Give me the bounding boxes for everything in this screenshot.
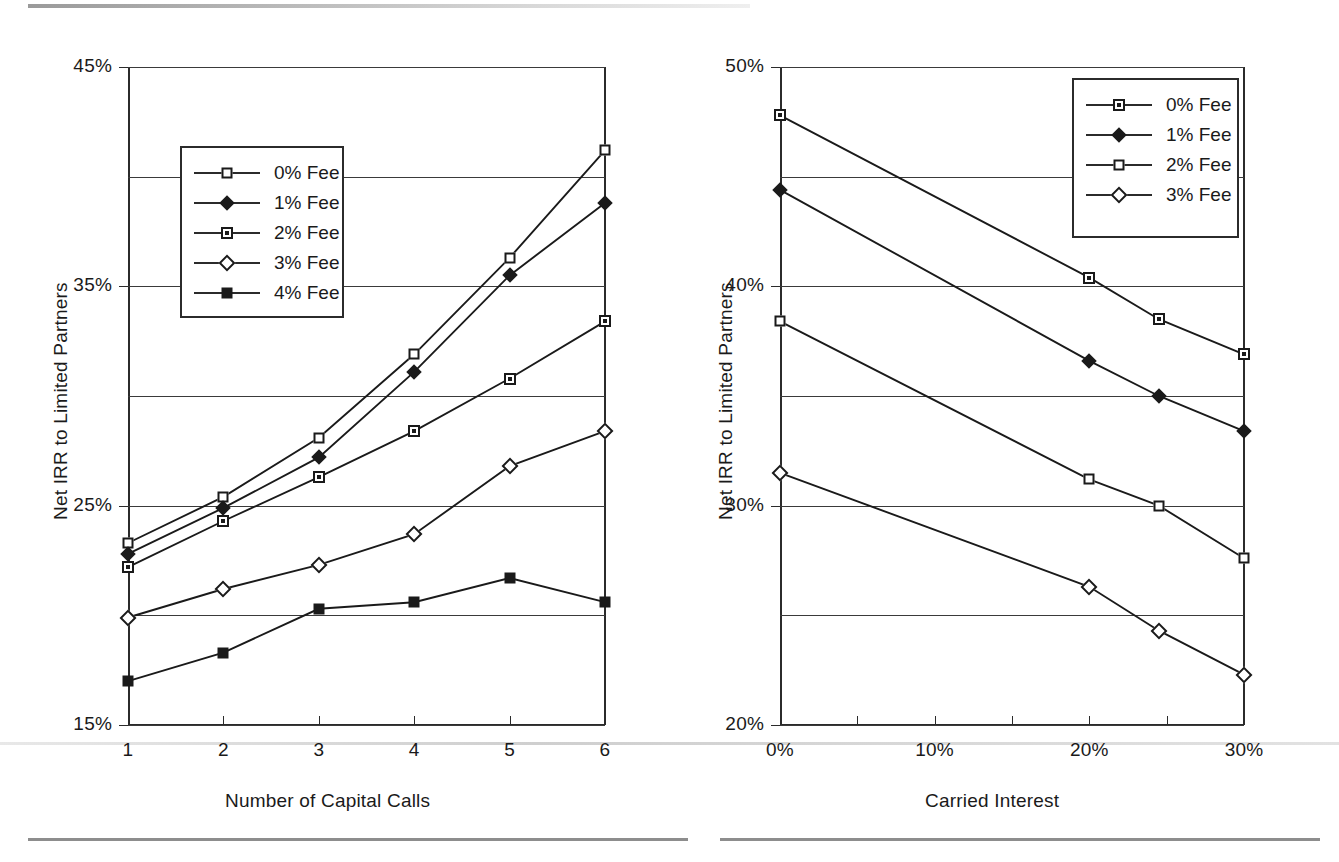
x-axis-tick-label: 3	[279, 739, 359, 761]
y-axis-tick	[771, 506, 780, 507]
left-chart: Net IRR to Limited Partners Number of Ca…	[0, 0, 700, 830]
y-axis-tick-label: 25%	[38, 494, 112, 516]
legend-item-label: 1% Fee	[274, 192, 339, 214]
legend-marker-sample	[1086, 154, 1152, 176]
x-axis-tick-label: 2	[183, 739, 263, 761]
legend-item-label: 3% Fee	[1166, 184, 1231, 206]
y-axis-tick-label: 35%	[38, 274, 112, 296]
right-chart-y-axis-title: Net IRR to Limited Partners	[715, 282, 737, 520]
marker-filled-square	[222, 288, 233, 299]
legend-item[interactable]: 2% Fee	[1086, 150, 1221, 180]
marker-filled-diamond	[219, 195, 235, 211]
legend-marker-sample	[194, 252, 260, 274]
y-axis-tick	[119, 67, 128, 68]
right-chart: Net IRR to Limited Partners Carried Inte…	[660, 0, 1339, 830]
marker-open-square	[1153, 500, 1164, 511]
x-axis-tick-label: 0%	[740, 739, 820, 761]
legend-marker-sample	[194, 222, 260, 244]
marker-dot-square	[221, 227, 233, 239]
legend-marker-sample	[194, 162, 260, 184]
legend-item-label: 4% Fee	[274, 282, 339, 304]
legend-marker-sample	[1086, 184, 1152, 206]
right-chart-legend: 0% Fee1% Fee2% Fee3% Fee	[1072, 78, 1239, 238]
legend-item[interactable]: 0% Fee	[194, 158, 326, 188]
marker-open-square	[775, 316, 786, 327]
right-chart-x-axis-title: Carried Interest	[925, 790, 1059, 812]
legend-marker-sample	[1086, 94, 1152, 116]
marker-dot-square	[504, 373, 516, 385]
x-axis-tick-label: 5	[470, 739, 550, 761]
marker-open-square	[1084, 474, 1095, 485]
y-axis-tick-label: 15%	[38, 713, 112, 735]
marker-filled-square	[600, 597, 611, 608]
x-axis-tick-label: 10%	[895, 739, 975, 761]
marker-dot-square	[408, 425, 420, 437]
figure-page: Net IRR to Limited Partners Number of Ca…	[0, 0, 1339, 862]
marker-open-square	[600, 145, 611, 156]
marker-filled-square	[123, 676, 134, 687]
series-line	[128, 321, 605, 567]
scan-artifact-bottom-left	[28, 838, 688, 841]
series-line	[780, 473, 1244, 675]
legend-item-label: 0% Fee	[1166, 94, 1231, 116]
marker-dot-square	[313, 471, 325, 483]
y-axis-tick	[771, 286, 780, 287]
legend-item[interactable]: 1% Fee	[1086, 120, 1221, 150]
series-line	[128, 431, 605, 617]
y-axis-tick-label: 40%	[690, 274, 764, 296]
x-axis-tick-label: 20%	[1049, 739, 1129, 761]
marker-open-square	[222, 168, 233, 179]
x-axis-tick	[1244, 716, 1245, 725]
marker-dot-square	[1083, 272, 1095, 284]
legend-item[interactable]: 3% Fee	[194, 248, 326, 278]
y-axis-tick-label: 50%	[690, 55, 764, 77]
legend-marker-sample	[194, 192, 260, 214]
marker-filled-square	[409, 597, 420, 608]
scan-artifact-bottom-right	[720, 838, 1320, 841]
marker-open-diamond	[1111, 187, 1128, 204]
marker-filled-square	[504, 573, 515, 584]
left-chart-legend: 0% Fee1% Fee2% Fee3% Fee4% Fee	[180, 146, 344, 318]
marker-open-square	[409, 349, 420, 360]
left-chart-x-axis-title: Number of Capital Calls	[225, 790, 430, 812]
legend-item[interactable]: 0% Fee	[1086, 90, 1221, 120]
marker-open-square	[313, 432, 324, 443]
legend-item-label: 2% Fee	[274, 222, 339, 244]
series-line	[128, 578, 605, 681]
legend-marker-sample	[1086, 124, 1152, 146]
legend-item[interactable]: 4% Fee	[194, 278, 326, 308]
legend-item-label: 1% Fee	[1166, 124, 1231, 146]
series-line	[780, 321, 1244, 558]
x-axis-tick-label: 1	[88, 739, 168, 761]
x-axis-tick-label: 4	[374, 739, 454, 761]
y-axis-tick	[119, 286, 128, 287]
x-axis-tick-label: 6	[565, 739, 645, 761]
marker-dot-square	[1113, 99, 1125, 111]
marker-dot-square	[1153, 313, 1165, 325]
legend-item-label: 3% Fee	[274, 252, 339, 274]
marker-open-diamond	[219, 255, 236, 272]
marker-dot-square	[1238, 348, 1250, 360]
marker-open-square	[1114, 160, 1125, 171]
marker-dot-square	[122, 561, 134, 573]
x-axis-tick	[605, 716, 606, 725]
y-axis-tick	[771, 67, 780, 68]
legend-item-label: 2% Fee	[1166, 154, 1231, 176]
legend-item[interactable]: 1% Fee	[194, 188, 326, 218]
y-axis-tick-label: 30%	[690, 494, 764, 516]
marker-filled-square	[218, 647, 229, 658]
y-axis-tick	[119, 506, 128, 507]
left-chart-y-axis-title: Net IRR to Limited Partners	[50, 282, 72, 520]
marker-filled-diamond	[1111, 127, 1127, 143]
legend-item[interactable]: 2% Fee	[194, 218, 326, 248]
marker-open-square	[504, 252, 515, 263]
marker-dot-square	[217, 515, 229, 527]
legend-item[interactable]: 3% Fee	[1086, 180, 1221, 210]
marker-dot-square	[599, 315, 611, 327]
y-axis-tick-label: 45%	[38, 55, 112, 77]
marker-dot-square	[774, 109, 786, 121]
y-axis-tick-label: 20%	[690, 713, 764, 735]
legend-item-label: 0% Fee	[274, 162, 339, 184]
legend-marker-sample	[194, 282, 260, 304]
marker-open-square	[1239, 553, 1250, 564]
